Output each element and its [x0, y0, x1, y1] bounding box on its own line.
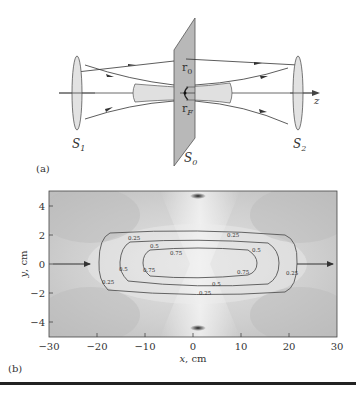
dark-spot-bottom — [190, 325, 206, 331]
panel-b-contour-plot: 0.25 0.25 0.25 0.25 0.25 0.5 0.5 0.5 0.5… — [8, 187, 350, 374]
lens-s1-label: S1 — [72, 137, 85, 153]
svg-text:0.25: 0.25 — [227, 232, 240, 238]
panel-a-label: (a) — [36, 163, 50, 174]
svg-text:0.5: 0.5 — [119, 266, 128, 272]
y-tick-labels: 4 2 0 −2 −4 — [30, 201, 45, 328]
ray-lower-right — [195, 101, 288, 124]
svg-text:0.5: 0.5 — [150, 243, 159, 249]
x-tick-labels: −30 −20 −10 0 10 20 30 — [38, 341, 343, 352]
svg-text:0.25: 0.25 — [286, 270, 299, 276]
ray-lower-left — [85, 101, 174, 119]
dark-spot-top — [190, 193, 206, 199]
svg-text:−30: −30 — [38, 341, 59, 352]
svg-text:−2: −2 — [30, 288, 45, 299]
svg-text:0.5: 0.5 — [252, 247, 261, 253]
svg-text:0.25: 0.25 — [102, 279, 115, 285]
svg-text:0: 0 — [190, 341, 196, 352]
svg-text:10: 10 — [235, 341, 248, 352]
focal-point — [184, 92, 187, 95]
svg-text:0.75: 0.75 — [143, 267, 156, 273]
panel-b-label: (b) — [8, 363, 22, 374]
svg-text:−4: −4 — [30, 317, 45, 328]
ray-top-left — [77, 61, 174, 72]
svg-text:0.75: 0.75 — [237, 269, 250, 275]
figure: z S1 S2 S0 r0 — [0, 0, 356, 394]
x-axis-label: x, cm — [179, 353, 207, 364]
plane-s0-label: S0 — [184, 151, 197, 167]
lens-s2-label: S2 — [293, 137, 306, 153]
svg-text:0.75: 0.75 — [170, 250, 183, 256]
svg-text:0: 0 — [39, 259, 45, 270]
svg-text:30: 30 — [331, 341, 344, 352]
svg-text:2: 2 — [39, 230, 45, 241]
ray-upper-right — [195, 68, 288, 85]
y-axis-label: y, cm — [18, 250, 29, 279]
svg-text:4: 4 — [39, 201, 45, 212]
svg-text:0.25: 0.25 — [128, 235, 141, 241]
svg-text:0.25: 0.25 — [199, 290, 212, 296]
panel-a-diagram: z S1 S2 S0 r0 — [36, 18, 320, 174]
svg-text:−20: −20 — [86, 341, 107, 352]
z-axis-label: z — [313, 95, 320, 106]
bottom-rule — [0, 382, 356, 385]
beam-left — [133, 84, 176, 102]
svg-text:20: 20 — [283, 341, 296, 352]
ray-upper-left — [85, 65, 174, 85]
svg-text:0.5: 0.5 — [212, 281, 221, 287]
svg-text:−10: −10 — [134, 341, 155, 352]
ray-top-right — [186, 59, 298, 65]
